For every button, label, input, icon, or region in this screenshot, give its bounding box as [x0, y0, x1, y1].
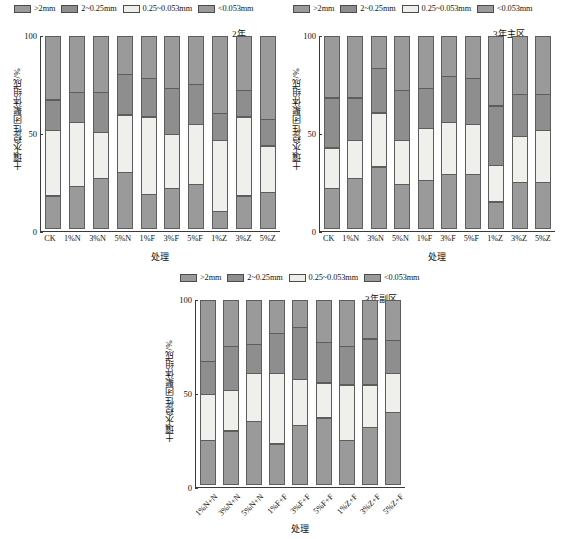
x-tick-label: 3%F — [163, 234, 178, 243]
chart-panel-year3-main: >2mm2~0.25mm0.25~0.053mm<0.053mm 3年主区 土壤… — [285, 0, 561, 268]
legend-swatch-icon-0 — [14, 5, 31, 13]
legend-swatch-icon-3 — [477, 5, 494, 13]
bar-segment — [394, 90, 410, 141]
legend-item-2[interactable]: 0.25~0.053mm — [289, 273, 358, 282]
stacked-bar — [236, 36, 252, 231]
bar-segment — [117, 74, 133, 115]
bar-segment — [269, 333, 285, 374]
chart-panel-year2: >2mm2~0.25mm0.25~0.053mm<0.053mm 2年 土壤水稳… — [0, 0, 285, 268]
bar-segment — [69, 122, 85, 186]
x-tick-label: 3%N — [89, 234, 106, 243]
bar-segment — [269, 300, 285, 334]
bar-segment — [324, 188, 340, 229]
bar-segment — [418, 88, 434, 129]
y-tick-label-0: 0 — [188, 483, 195, 493]
bar-segment — [535, 94, 551, 131]
x-tick-label: 5%N — [114, 234, 131, 243]
legend-label-0: >2mm — [34, 4, 55, 13]
legend-item-0[interactable]: >2mm — [293, 4, 334, 13]
legend-swatch-icon-3 — [364, 274, 381, 282]
legend-label-3: <0.053mm — [384, 273, 419, 282]
legend-item-1[interactable]: 2~0.25mm — [340, 4, 395, 13]
legend-label-3: <0.053mm — [497, 4, 532, 13]
bar-segment — [164, 188, 180, 229]
bar-segment — [512, 182, 528, 229]
legend-item-0[interactable]: >2mm — [14, 4, 55, 13]
plot-area-year3-sub — [195, 300, 405, 488]
stacked-bar — [418, 36, 434, 231]
x-tick-label: 5%Z — [260, 234, 276, 243]
bar-segment — [188, 84, 204, 125]
x-tick-labels-year2: CK1%N3%N5%N1%F3%F5%F1%Z3%Z5%Z — [40, 234, 280, 243]
stacked-bar — [260, 36, 276, 231]
legend-label-2: 0.25~0.053mm — [309, 273, 358, 282]
legend-swatch-icon-2 — [123, 5, 140, 13]
bar-segment — [488, 36, 504, 106]
legend-label-1: 2~0.25mm — [360, 4, 395, 13]
x-tick-label: CK — [44, 234, 55, 243]
x-tick-label: 3%Z — [511, 234, 527, 243]
stacked-bar — [441, 36, 457, 231]
bar-segment — [316, 418, 332, 485]
bar-segment — [93, 132, 109, 179]
x-tick-label: 3%Z — [236, 234, 252, 243]
bar-segment — [260, 119, 276, 146]
legend-item-3[interactable]: <0.053mm — [198, 4, 253, 13]
legend-item-3[interactable]: <0.053mm — [477, 4, 532, 13]
y-tick-label-100: 100 — [24, 31, 40, 41]
chart-panel-year3-sub: >2mm2~0.25mm0.25~0.053mm<0.053mm 3年副区 土壤… — [150, 270, 450, 539]
x-tick-label: 5%F — [464, 234, 479, 243]
bar-segment — [347, 98, 363, 141]
bar-segment — [441, 36, 457, 77]
legend-item-0[interactable]: >2mm — [180, 273, 221, 282]
stacked-bar — [488, 36, 504, 231]
legend-item-2[interactable]: 0.25~0.053mm — [123, 4, 192, 13]
x-axis-title-year2: 处理 — [40, 250, 280, 263]
bar-segment — [465, 174, 481, 229]
bar-segment — [535, 36, 551, 95]
bar-segment — [488, 165, 504, 202]
bar-segment — [394, 140, 410, 185]
bar-segment — [292, 425, 308, 485]
bar-segment — [188, 36, 204, 85]
x-axis-title-year3-sub: 处理 — [195, 522, 405, 535]
legend-swatch-icon-1 — [61, 5, 78, 13]
legend-item-2[interactable]: 0.25~0.053mm — [402, 4, 471, 13]
bar-segment — [200, 440, 216, 485]
stacked-bar — [93, 36, 109, 231]
bar-segment — [385, 412, 401, 485]
y-tick-label-50: 50 — [308, 129, 320, 139]
bar-segment — [188, 184, 204, 229]
bar-segment — [236, 36, 252, 91]
legend-swatch-icon-0 — [293, 5, 310, 13]
legend-item-1[interactable]: 2~0.25mm — [61, 4, 116, 13]
stacked-bar — [347, 36, 363, 231]
plot-area-year2 — [40, 36, 280, 232]
y-tick-label-50: 50 — [29, 129, 41, 139]
bar-segment — [385, 300, 401, 341]
stacked-bar — [45, 36, 61, 231]
bar-segment — [69, 92, 85, 123]
bar-segment — [45, 36, 61, 100]
bar-segment — [236, 117, 252, 197]
bar-segment — [246, 421, 262, 485]
bar-segment — [164, 134, 180, 189]
stacked-bar — [69, 36, 85, 231]
bar-segment — [324, 98, 340, 149]
legend-swatch-icon-3 — [198, 5, 215, 13]
bar-segment — [394, 184, 410, 229]
legend-item-3[interactable]: <0.053mm — [364, 273, 419, 282]
stacked-bar — [141, 36, 157, 231]
x-tick-label: 1%Z — [487, 234, 503, 243]
bar-segment — [488, 202, 504, 229]
bar-segment — [441, 122, 457, 175]
legend-item-1[interactable]: 2~0.25mm — [227, 273, 282, 282]
bar-segment — [200, 300, 216, 362]
bar-segment — [117, 115, 133, 174]
bar-segment — [200, 361, 216, 395]
bar-segment — [385, 373, 401, 412]
bar-segment — [371, 36, 387, 69]
bar-segment — [141, 36, 157, 79]
bar-segment — [141, 194, 157, 229]
bar-segment — [465, 78, 481, 125]
